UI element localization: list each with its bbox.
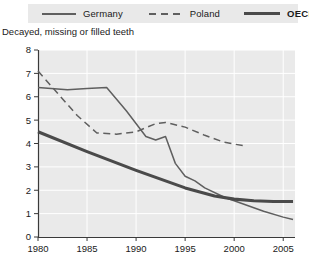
y-tick-label: 3: [26, 161, 31, 172]
y-tick-label: 1: [26, 208, 31, 219]
y-tick-label: 4: [26, 138, 31, 149]
x-tick-label: 1985: [76, 243, 97, 254]
x-tick-label: 2000: [224, 243, 245, 254]
y-tick-label: 0: [26, 231, 31, 242]
x-tick-label: 1980: [27, 243, 48, 254]
y-tick-label: 8: [26, 44, 31, 55]
x-tick-label: 1995: [175, 243, 196, 254]
y-tick-label: 2: [26, 185, 31, 196]
y-tick-label: 7: [26, 68, 31, 79]
plot-area-wrapper: 012345678 198019851990199520002005: [0, 0, 309, 266]
y-tick-label: 5: [26, 115, 31, 126]
y-tick-label: 6: [26, 91, 31, 102]
chart-svg: 012345678 198019851990199520002005: [0, 0, 309, 266]
y-axis-tick-labels: 012345678: [26, 44, 31, 242]
x-tick-label: 2005: [273, 243, 294, 254]
chart-root: Germany Poland OECD Decayed, missing or …: [0, 0, 309, 266]
x-axis-tick-labels: 198019851990199520002005: [27, 243, 293, 254]
y-axis-ticks: [34, 50, 38, 237]
x-tick-label: 1990: [126, 243, 147, 254]
